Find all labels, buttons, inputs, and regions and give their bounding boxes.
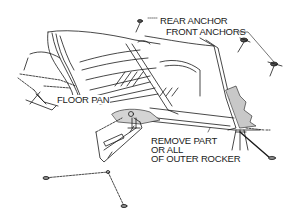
front-anchor-1 xyxy=(238,38,250,52)
chain-front-left xyxy=(44,172,108,178)
rear-anchor xyxy=(136,20,143,33)
label-front-anchors: FRONT ANCHORS xyxy=(166,27,246,36)
chain-left xyxy=(20,74,76,86)
label-rear-anchor: REAR ANCHOR xyxy=(160,16,227,25)
chain-rear-right xyxy=(240,132,270,158)
leader-remove-rocker xyxy=(208,128,210,132)
chain-front-down xyxy=(108,172,124,206)
label-remove-rocker-line3: OF OUTER ROCKER xyxy=(151,154,240,163)
anchoring-diagram xyxy=(0,0,300,211)
front-anchor-2 xyxy=(268,62,282,76)
front-clamp-stand xyxy=(96,118,142,162)
label-floor-pan: FLOOR PAN xyxy=(56,95,110,104)
rear-right-stand xyxy=(232,130,248,150)
shaded-panel xyxy=(226,86,256,128)
